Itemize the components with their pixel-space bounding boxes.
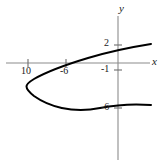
y-tick-label-neg6: -6 — [101, 102, 109, 112]
parabola-figure: y x 10 -6 2 -1 -6 — [0, 0, 165, 165]
y-axis-label: y — [119, 3, 124, 14]
x-axis-label: x — [152, 56, 157, 67]
parabola-curve — [27, 44, 152, 110]
plot-canvas — [0, 0, 165, 165]
x-tick-label-neg10: 10 — [21, 66, 31, 76]
x-tick-label-neg6: -6 — [60, 66, 68, 76]
y-tick-label-neg1: -1 — [101, 64, 109, 74]
y-tick-label-2: 2 — [104, 38, 109, 48]
